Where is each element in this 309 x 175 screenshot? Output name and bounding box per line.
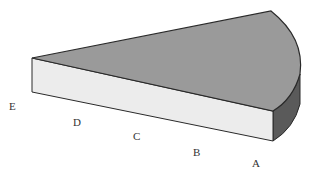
wedge-diagram (0, 0, 309, 175)
label-a: A (252, 158, 260, 169)
label-d: D (73, 117, 81, 128)
label-c: C (133, 131, 140, 142)
label-e: E (9, 101, 16, 112)
label-b: B (193, 147, 200, 158)
